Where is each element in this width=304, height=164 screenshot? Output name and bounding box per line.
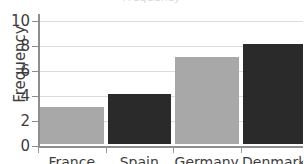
y-tick-label: 0: [4, 139, 30, 154]
x-axis-line: [38, 146, 303, 148]
y-axis-line: [38, 14, 40, 147]
y-tick-label: 10: [4, 14, 30, 29]
y-tick-label: 8: [4, 39, 30, 54]
x-tick-label: Denmark: [241, 155, 304, 164]
x-tick-label: France: [38, 155, 106, 164]
bar-chart: Frequency Frequency 0246810 FranceSpainG…: [0, 0, 303, 164]
bar[interactable]: [108, 94, 172, 144]
y-tick-label: 6: [4, 64, 30, 79]
y-tick-label: 4: [4, 89, 30, 104]
bar[interactable]: [243, 44, 304, 144]
gridline: [38, 21, 303, 22]
bar[interactable]: [175, 57, 239, 145]
y-tick-label: 2: [4, 114, 30, 129]
plot-area: 0246810 FranceSpainGermanyDenmark: [38, 14, 303, 146]
x-tick-label: Germany: [173, 155, 241, 164]
chart-title-clipped: Frequency: [0, 0, 303, 5]
x-tick-label: Spain: [106, 155, 174, 164]
bar[interactable]: [40, 107, 104, 145]
